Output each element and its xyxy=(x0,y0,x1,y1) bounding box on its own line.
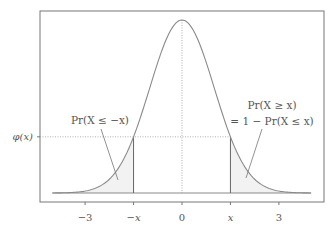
x-tick-label: −3 xyxy=(78,212,93,223)
y-axis-ticks: φ(x) xyxy=(13,131,40,142)
y-tick-label: φ(x) xyxy=(13,131,34,142)
x-tick-label: −x xyxy=(127,212,141,223)
right-tail-label-line1: Pr(X ≥ x) xyxy=(247,99,296,111)
right-tail-label-line2: = 1 − Pr(X ≤ x) xyxy=(230,115,313,127)
right-leader-line xyxy=(246,129,262,178)
left-tail-label: Pr(X ≤ −x) xyxy=(71,114,129,126)
right-tail-shade xyxy=(230,137,311,193)
normal-distribution-chart: −3−x0x3 φ(x) Pr(X ≤ −x) Pr(X ≥ x) = 1 − … xyxy=(0,0,336,231)
x-tick-label: x xyxy=(228,212,234,223)
x-tick-label: 0 xyxy=(179,212,185,223)
x-axis-ticks: −3−x0x3 xyxy=(78,202,282,223)
left-tail-shade xyxy=(53,137,134,193)
x-tick-label: 3 xyxy=(276,212,282,223)
